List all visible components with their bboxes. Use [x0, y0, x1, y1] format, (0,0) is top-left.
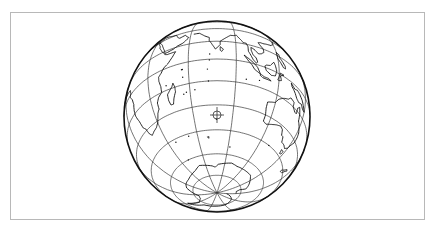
globe-map[interactable] [0, 0, 436, 227]
island-dot [188, 136, 189, 137]
coastline-kerguelen [208, 137, 210, 139]
meridian-line [217, 33, 279, 193]
coastline-newzealand_s [280, 170, 287, 173]
island-dot [181, 69, 182, 70]
island-dot [194, 89, 195, 90]
coastline-antarctica [186, 163, 251, 206]
island-dot [268, 145, 269, 146]
coastline-java [260, 74, 271, 81]
coastline-tasmania [280, 150, 284, 155]
island-dot [175, 142, 176, 143]
island-dot [229, 146, 230, 147]
meridian-line [188, 23, 217, 193]
coastline-sulawesi [278, 73, 284, 81]
coastline-srilanka [220, 47, 223, 52]
meridian-line [206, 193, 217, 211]
island-dot [209, 59, 210, 60]
center-crosshair-icon [210, 107, 224, 123]
island-dot [188, 159, 189, 160]
island-dot [165, 85, 166, 86]
coastline-philippines [276, 52, 285, 69]
island-dot [208, 80, 209, 81]
meridian-line [217, 149, 304, 194]
island-dot [207, 68, 208, 69]
islands [165, 53, 269, 160]
island-dot [183, 94, 184, 95]
island-dot [182, 77, 183, 78]
coastline-borneo [265, 62, 277, 76]
parallel-line [145, 29, 290, 57]
coastline-madagascar [168, 83, 176, 105]
island-dot [259, 80, 260, 81]
coastline-africa [125, 43, 176, 135]
island-dot [246, 79, 247, 80]
island-dot [209, 53, 210, 54]
island-dot [186, 92, 187, 93]
